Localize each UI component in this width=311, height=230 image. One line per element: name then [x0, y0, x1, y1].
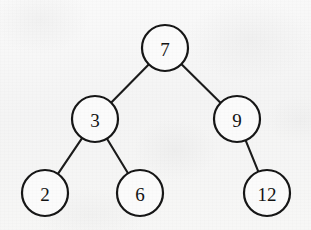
node-layer: 7392612 [22, 25, 290, 216]
tree-node[interactable]: 2 [22, 170, 68, 216]
tree-node[interactable]: 6 [117, 170, 163, 216]
tree-node[interactable]: 7 [142, 25, 188, 71]
tree-edge [245, 140, 258, 172]
tree-edge [107, 138, 129, 174]
tree-node-label: 9 [232, 110, 242, 131]
tree-node[interactable]: 9 [214, 96, 260, 142]
tree-node-label: 12 [258, 184, 277, 205]
tree-edge [181, 64, 221, 103]
tree-edge [58, 138, 83, 175]
tree-node[interactable]: 12 [244, 170, 290, 216]
tree-node[interactable]: 3 [72, 96, 118, 142]
tree-edge [111, 64, 149, 103]
tree-node-label: 7 [160, 39, 170, 60]
tree-node-label: 6 [135, 184, 145, 205]
tree-node-label: 3 [90, 110, 100, 131]
tree-svg-canvas: 7392612 [0, 0, 311, 230]
binary-tree-diagram: 7392612 [0, 0, 311, 230]
tree-node-label: 2 [40, 184, 50, 205]
